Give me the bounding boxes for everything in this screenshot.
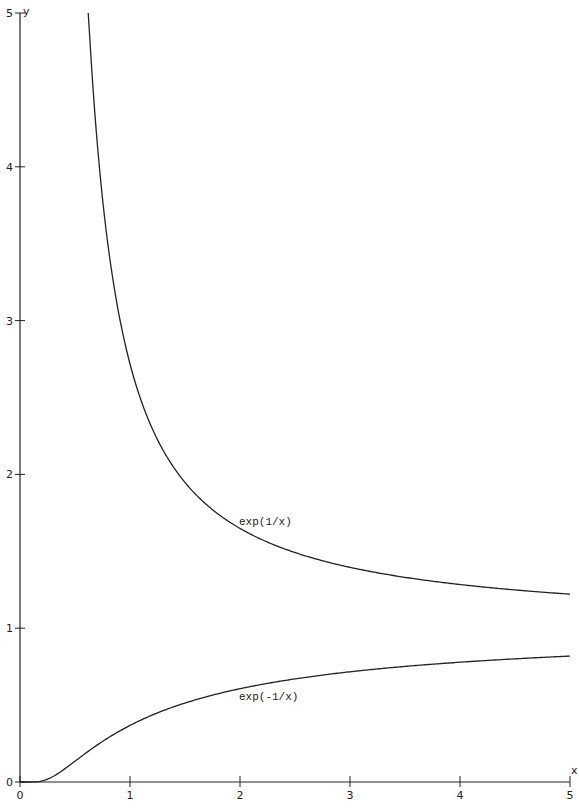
y-tick-label: 1 [6,622,13,635]
x-axis-label: x [571,764,578,777]
axes: 012345 012345 x y [6,5,578,802]
curve-exp-1-over-x [88,13,570,594]
x-tick-label: 3 [347,789,354,802]
x-tick-label: 4 [457,789,464,802]
y-tick-label: 5 [6,7,13,20]
y-tick-label: 4 [6,161,13,174]
curve-label-exp-neg-1-over-x: exp(-1/x) [239,691,298,703]
curve-label-exp-1-over-x: exp(1/x) [239,516,292,528]
y-axis-label: y [23,5,30,18]
y-ticks: 012345 [6,7,25,789]
x-tick-label: 1 [127,789,134,802]
x-ticks: 012345 [17,776,574,802]
curves: exp(1/x) exp(-1/x) [20,13,570,782]
x-tick-label: 5 [567,789,574,802]
curve-exp-neg-1-over-x [20,656,570,782]
y-tick-label: 0 [6,776,13,789]
y-tick-label: 3 [6,315,13,328]
chart-canvas: 012345 012345 x y exp(1/x) exp(-1/x) [0,0,579,810]
y-tick-label: 2 [6,468,13,481]
x-tick-label: 0 [17,789,24,802]
x-tick-label: 2 [237,789,244,802]
